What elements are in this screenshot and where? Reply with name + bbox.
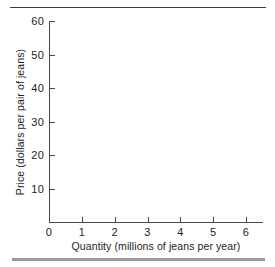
y-tick-mark xyxy=(50,155,55,156)
chart-figure: 102030405060 0123456 Price (dollars per … xyxy=(0,0,275,267)
y-tick-mark xyxy=(50,88,55,89)
y-tick-mark xyxy=(50,21,55,22)
x-tick-mark xyxy=(115,217,116,222)
x-tick-mark xyxy=(213,217,214,222)
top-divider-rule xyxy=(10,7,266,8)
bottom-divider-rule xyxy=(12,258,265,261)
x-tick-mark xyxy=(82,217,83,222)
x-tick-label: 1 xyxy=(72,226,92,238)
x-tick-label: 2 xyxy=(105,226,125,238)
x-tick-label: 4 xyxy=(170,226,190,238)
x-tick-mark xyxy=(180,217,181,222)
y-tick-mark xyxy=(50,189,55,190)
x-tick-label: 6 xyxy=(236,226,256,238)
x-tick-label: 3 xyxy=(138,226,158,238)
y-axis-title: Price (dollars per pair of jeans) xyxy=(14,21,28,223)
x-tick-mark xyxy=(246,217,247,222)
y-tick-mark xyxy=(50,122,55,123)
x-axis-title: Quantity (millions of jeans per year) xyxy=(49,240,263,252)
y-tick-mark xyxy=(50,55,55,56)
x-tick-label: 5 xyxy=(203,226,223,238)
plot-area xyxy=(50,21,263,222)
x-tick-mark xyxy=(148,217,149,222)
x-axis-line xyxy=(49,222,263,223)
x-tick-label: 0 xyxy=(39,226,59,238)
